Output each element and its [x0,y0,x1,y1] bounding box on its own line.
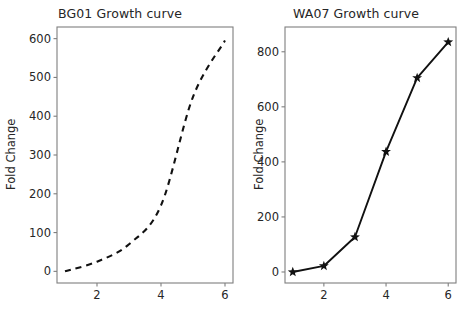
data-point-marker [381,147,391,156]
plot-canvas-wa07: 0200400600800246 [240,0,473,315]
y-tick-label: 300 [29,148,51,162]
x-tick-label: 4 [157,288,164,302]
y-tick-label: 0 [272,265,279,279]
matplotlib-figure: BG01 Growth curve Fold Change 0100200300… [0,0,473,315]
plot-canvas-bg01: 0100200300400500600246 [0,0,240,315]
data-series-line [293,42,448,272]
y-tick-label: 100 [29,226,51,240]
subplot-bg01: BG01 Growth curve Fold Change 0100200300… [0,0,240,315]
x-tick-label: 2 [320,288,327,302]
y-tick-label: 400 [29,109,51,123]
y-tick-label: 0 [44,264,51,278]
data-point-marker [288,267,298,276]
subplot-wa07: WA07 Growth curve Fold Change 0200400600… [240,0,473,315]
x-tick-label: 2 [93,288,100,302]
data-series-line [65,41,225,272]
y-tick-label: 500 [29,70,51,84]
y-tick-label: 600 [29,32,51,46]
y-tick-label: 200 [29,187,51,201]
y-tick-label: 400 [257,155,279,169]
x-tick-label: 6 [445,288,452,302]
x-tick-label: 6 [221,288,228,302]
x-tick-label: 4 [382,288,389,302]
y-tick-label: 200 [257,210,279,224]
y-tick-label: 600 [257,100,279,114]
y-tick-label: 800 [257,45,279,59]
